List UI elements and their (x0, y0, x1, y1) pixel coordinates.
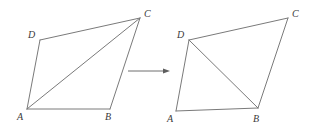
right-edge-DA (176, 40, 189, 111)
left-vertex-label-A: A (17, 112, 23, 122)
right-diagonal-DB (189, 40, 258, 108)
right-vertex-label-C: C (292, 9, 299, 19)
right-edge-BC (258, 18, 288, 108)
right-vertex-label-A: A (167, 114, 173, 124)
left-edge-BC (110, 18, 140, 109)
left-vertex-label-B: B (105, 112, 111, 122)
left-vertex-label-D: D (28, 30, 35, 40)
arrow-head (163, 68, 170, 73)
left-quadrilateral (27, 18, 140, 109)
left-vertex-label-C: C (144, 9, 151, 19)
left-edge-CD (40, 18, 140, 40)
right-edge-AB (176, 108, 258, 111)
right-vertex-label-B: B (253, 114, 259, 124)
left-diagonal-AC (27, 18, 140, 109)
arrow-icon (128, 68, 170, 73)
right-vertex-label-D: D (177, 30, 184, 40)
diagram-canvas (0, 0, 314, 131)
left-edge-DA (27, 40, 40, 109)
right-edge-CD (189, 18, 288, 40)
geometry-diagram: A B C D A B C D (0, 0, 314, 131)
right-quadrilateral (176, 18, 288, 111)
